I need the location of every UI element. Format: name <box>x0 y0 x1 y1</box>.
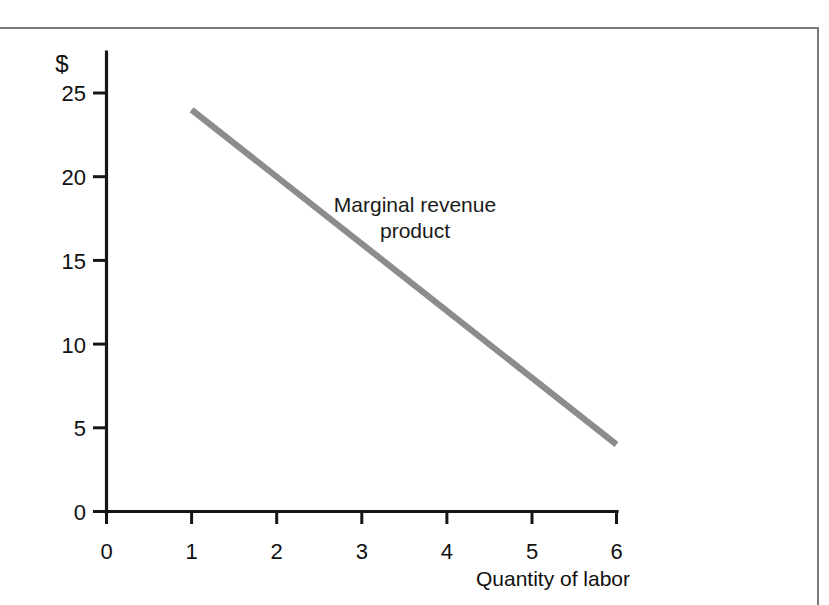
y-tick-label-5: 5 <box>74 416 86 441</box>
x-tick-label-1: 1 <box>185 539 197 564</box>
x-tick-label-6: 6 <box>610 539 622 564</box>
x-tick-label-5: 5 <box>526 539 538 564</box>
x-tick-label-4: 4 <box>441 539 453 564</box>
y-tick-marks <box>93 93 107 512</box>
y-tick-label-0: 0 <box>74 500 86 525</box>
x-tick-label-3: 3 <box>356 539 368 564</box>
y-tick-label-25: 25 <box>62 81 86 106</box>
x-tick-marks <box>107 512 617 525</box>
series-label-line-1: Marginal revenue <box>334 193 496 216</box>
marginal-revenue-product-chart: 0 5 10 15 20 25 $ 0 1 2 3 4 5 6 Quantity… <box>0 0 829 605</box>
y-tick-label-20: 20 <box>62 165 86 190</box>
series-label-line-2: product <box>380 219 450 242</box>
figure-page: 0 5 10 15 20 25 $ 0 1 2 3 4 5 6 Quantity… <box>0 0 829 605</box>
y-axis-unit-label: $ <box>55 50 68 77</box>
marginal-revenue-product-line <box>192 110 617 445</box>
x-tick-label-2: 2 <box>271 539 283 564</box>
x-tick-label-0: 0 <box>100 539 112 564</box>
x-axis-title: Quantity of labor <box>476 567 630 590</box>
y-tick-label-15: 15 <box>62 249 86 274</box>
y-tick-label-10: 10 <box>62 333 86 358</box>
